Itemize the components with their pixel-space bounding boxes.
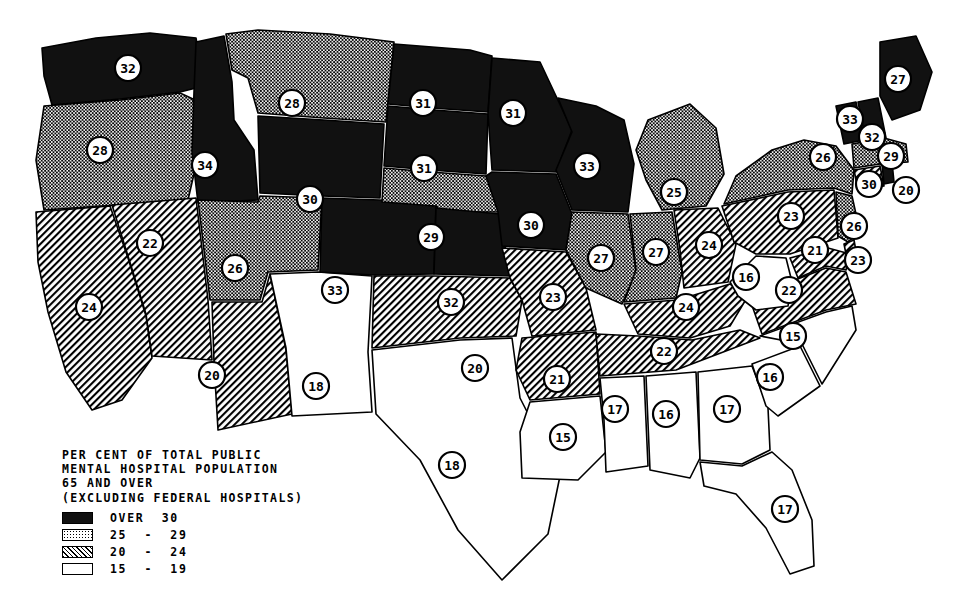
bubble-MO[interactable]: 23 [540,284,566,310]
bubble-IA[interactable]: 30 [518,212,544,238]
bubble-value-AR: 21 [549,372,565,387]
bubble-value-WV: 16 [738,270,754,285]
state-WY[interactable] [258,116,384,198]
legend-title-line-1: PER CENT OF TOTAL PUBLIC [62,448,352,462]
bubble-KY[interactable]: 24 [673,294,699,320]
bubble-value-AL: 16 [658,407,674,422]
bubble-value-OH: 24 [701,238,717,253]
bubble-MN[interactable]: 31 [500,100,526,126]
bubble-MT[interactable]: 28 [279,90,305,116]
bubble-value-NM: 18 [308,379,324,394]
bubble-TX[interactable]: 18 [439,452,465,478]
bubble-FL[interactable]: 17 [772,496,798,522]
bubble-MS[interactable]: 17 [602,396,628,422]
bubble-RI[interactable]: 30 [856,171,882,197]
bubble-value-FL: 17 [777,502,793,517]
bubble-value-OK: 20 [467,361,483,376]
legend-rows: OVER 30 25 - 29 20 - 24 15 - 19 [62,510,352,578]
legend-swatch-stipple-icon [62,529,93,541]
bubble-value-CA: 24 [81,300,97,315]
state-MS[interactable] [600,376,648,472]
legend-swatch-white-icon [62,563,93,575]
bubble-IL[interactable]: 27 [588,245,614,271]
bubble-NY[interactable]: 26 [810,144,836,170]
legend-swatch-solid-black-icon [62,512,93,524]
bubble-KS[interactable]: 32 [438,289,464,315]
bubble-NV[interactable]: 22 [137,230,163,256]
bubble-CA[interactable]: 24 [76,294,102,320]
legend-label-20-24: 20 - 24 [110,545,188,559]
bubble-OH[interactable]: 24 [696,232,722,258]
bubble-value-MN: 31 [505,106,521,121]
bubble-NC[interactable]: 15 [780,323,806,349]
bubble-CO[interactable]: 33 [322,277,348,303]
map-figure: 32 28 24 22 34 28 30 26 20 18 33 31 [0,0,969,616]
bubble-WY[interactable]: 30 [297,186,323,212]
bubble-PA[interactable]: 23 [778,203,804,229]
state-ND[interactable] [388,44,492,112]
bubble-NJ[interactable]: 26 [841,213,867,239]
bubble-WV[interactable]: 16 [733,264,759,290]
bubble-OR[interactable]: 28 [87,137,113,163]
legend-row-20-24[interactable]: 20 - 24 [62,544,352,561]
bubble-IN[interactable]: 27 [643,239,669,265]
bubble-value-CO: 33 [327,283,343,298]
legend-label-over-30: OVER 30 [110,511,179,525]
legend-row-over-30[interactable]: OVER 30 [62,510,352,527]
bubble-WI[interactable]: 33 [574,153,600,179]
bubble-OK[interactable]: 20 [462,355,488,381]
bubble-AZ[interactable]: 20 [199,362,225,388]
map-legend: PER CENT OF TOTAL PUBLIC MENTAL HOSPITAL… [62,448,352,578]
bubble-ND[interactable]: 31 [410,90,436,116]
bubble-value-CT: 20 [898,183,914,198]
legend-label-25-29: 25 - 29 [110,528,188,542]
bubble-value-OR: 28 [92,143,108,158]
bubble-value-AZ: 20 [204,368,220,383]
bubble-value-MD: 21 [807,243,823,258]
bubble-value-NJ: 26 [846,219,862,234]
bubble-NH[interactable]: 32 [859,124,885,150]
bubble-CT[interactable]: 20 [893,177,919,203]
bubble-GA[interactable]: 17 [714,396,740,422]
legend-swatch-hatch-icon [62,546,93,558]
bubble-value-NH: 32 [864,130,880,145]
bubble-value-WI: 33 [579,159,595,174]
bubble-ID[interactable]: 34 [192,152,218,178]
bubble-value-VA: 22 [781,283,797,298]
bubble-SD[interactable]: 31 [411,155,437,181]
bubble-MD[interactable]: 21 [802,237,828,263]
bubble-ME[interactable]: 27 [885,66,911,92]
bubble-MI[interactable]: 25 [661,179,687,205]
bubble-value-IL: 27 [593,251,609,266]
bubble-DE[interactable]: 23 [845,247,871,273]
bubble-LA[interactable]: 15 [550,424,576,450]
bubble-value-NE: 29 [423,230,439,245]
bubble-value-WY: 30 [302,192,318,207]
bubble-value-SD: 31 [416,161,432,176]
bubble-AL[interactable]: 16 [653,401,679,427]
legend-row-25-29[interactable]: 25 - 29 [62,527,352,544]
legend-title-line-3: 65 AND OVER [62,476,352,490]
bubble-value-IN: 27 [648,245,664,260]
bubble-value-ND: 31 [415,96,431,111]
bubble-value-MT: 28 [284,96,300,111]
legend-label-15-19: 15 - 19 [110,562,188,576]
bubble-VT[interactable]: 33 [837,106,863,132]
bubble-NE[interactable]: 29 [418,224,444,250]
bubble-AR[interactable]: 21 [544,366,570,392]
bubble-VA[interactable]: 22 [776,277,802,303]
bubble-SC[interactable]: 16 [757,364,783,390]
bubble-TN[interactable]: 22 [651,338,677,364]
bubble-WA[interactable]: 32 [115,55,141,81]
bubble-value-WA: 32 [120,61,136,76]
legend-title-line-4: (EXCLUDING FEDERAL HOSPITALS) [62,491,352,505]
bubble-value-SC: 16 [762,370,778,385]
legend-row-15-19[interactable]: 15 - 19 [62,561,352,578]
bubble-value-KS: 32 [443,295,459,310]
bubble-value-NC: 15 [785,329,801,344]
bubble-value-ME: 27 [890,72,906,87]
bubble-NM[interactable]: 18 [303,373,329,399]
state-MT[interactable] [226,30,394,122]
bubble-UT[interactable]: 26 [222,255,248,281]
state-OR[interactable] [36,93,199,210]
